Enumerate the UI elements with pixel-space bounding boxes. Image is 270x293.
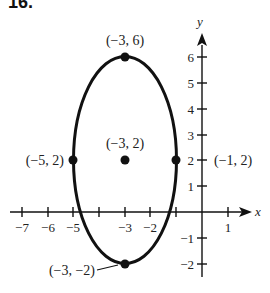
x-tick-label: −6 [41, 220, 55, 235]
y-tick-label: 4 [188, 102, 195, 117]
label-bottom: (−3, −2) [49, 263, 95, 279]
y-tick-label: 5 [188, 76, 195, 91]
point-center [121, 156, 130, 165]
x-axis [10, 207, 245, 217]
y-axis-label: y [195, 14, 203, 29]
y-axis [197, 45, 207, 277]
label-right: (−1, 2) [214, 153, 253, 169]
x-tick-label: −5 [66, 220, 80, 235]
x-tick-label: 1 [225, 220, 232, 235]
leader-line-bottom [97, 265, 118, 270]
y-axis-arrow-icon [197, 33, 207, 46]
problem-number: 16. [8, 0, 33, 12]
y-tick-label: −1 [180, 231, 194, 246]
point-bottom [121, 260, 130, 269]
point-left [69, 156, 78, 165]
point-right [172, 156, 181, 165]
y-tick-label: 6 [188, 50, 195, 65]
label-top: (−3, 6) [106, 33, 145, 49]
point-top [121, 53, 130, 62]
ellipse-graph: 16. x −7 −6 −5 −3 −2 1 y 6 5 4 3 2 1 −1 … [0, 0, 270, 293]
y-tick-label: 3 [188, 128, 195, 143]
x-tick-label: −2 [143, 220, 157, 235]
y-tick-label: −2 [180, 257, 194, 272]
x-axis-label: x [254, 204, 261, 219]
x-tick-label: −7 [15, 220, 29, 235]
y-tick-label: 1 [188, 179, 195, 194]
y-tick-label: 2 [188, 153, 195, 168]
x-tick-label: −3 [118, 220, 132, 235]
label-center: (−3, 2) [106, 136, 145, 152]
label-left: (−5, 2) [26, 153, 65, 169]
